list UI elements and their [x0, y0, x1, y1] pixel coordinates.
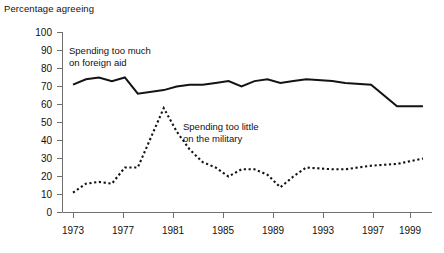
y-tick-label: 60 [41, 99, 53, 110]
series-line-foreign-aid [73, 78, 423, 107]
y-tick-label: 0 [46, 207, 52, 218]
chart-plot-area: 100 90 80 70 60 50 40 30 20 10 0 1973 19… [0, 0, 444, 253]
x-tick-label: 1973 [62, 225, 85, 236]
y-tick-label: 50 [41, 117, 53, 128]
x-tick-label: 1989 [262, 225, 285, 236]
y-tick-label: 10 [41, 189, 53, 200]
y-tick-label: 40 [41, 135, 53, 146]
x-tick-label: 1997 [362, 225, 385, 236]
x-tick-label: 1985 [212, 225, 235, 236]
chart-container: Percentage agreeing 100 90 80 70 60 50 [0, 0, 444, 253]
annotation-line-2: on foreign aid [69, 57, 127, 68]
y-tick-label: 100 [35, 27, 52, 38]
y-tick-labels: 100 90 80 70 60 50 40 30 20 10 0 [35, 27, 52, 218]
y-tick-label: 90 [41, 45, 53, 56]
x-tick-marks [74, 213, 411, 219]
y-tick-label: 80 [41, 63, 53, 74]
annotation-military: Spending too little on the military [183, 121, 259, 144]
annotation-line-1: Spending too much [69, 45, 151, 56]
x-tick-label: 1999 [399, 225, 422, 236]
y-tick-label: 70 [41, 81, 53, 92]
y-tick-marks [57, 33, 63, 213]
annotation-foreign-aid: Spending too much on foreign aid [69, 45, 151, 68]
annotation-line-1: Spending too little [183, 121, 259, 132]
x-tick-label: 1977 [112, 225, 135, 236]
x-tick-label: 1981 [162, 225, 185, 236]
y-tick-label: 20 [41, 171, 53, 182]
annotation-line-2: on the military [183, 133, 242, 144]
x-tick-label: 1993 [312, 225, 335, 236]
x-tick-labels: 1973 1977 1981 1985 1989 1993 1997 1999 [62, 225, 422, 236]
y-tick-label: 30 [41, 153, 53, 164]
